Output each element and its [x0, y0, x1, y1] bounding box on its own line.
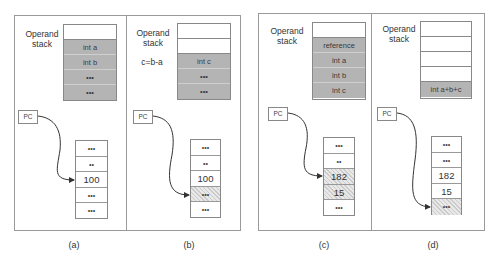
pc-arrow-b — [153, 116, 189, 195]
pc-arrow-c — [288, 113, 322, 176]
pc-arrows — [0, 0, 500, 259]
pc-arrow-a — [38, 116, 74, 180]
pc-arrow-d — [397, 113, 430, 207]
